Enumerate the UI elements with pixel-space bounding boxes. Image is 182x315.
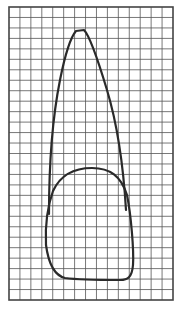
tooth-grid-diagram — [0, 0, 182, 315]
background — [0, 0, 182, 315]
